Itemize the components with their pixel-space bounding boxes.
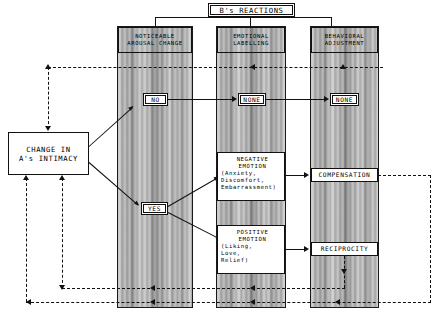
column-header-line1: EMOTIONAL [233, 33, 269, 40]
arrowhead-feedback-upper-mid [250, 64, 255, 70]
column-header-behavioral-adjustment: BEHAVIORAL ADJUSTMENT [311, 27, 378, 53]
arrowhead-feedback-upper-into-source [45, 126, 51, 131]
connector-labelling-none-to-adjustment-none [266, 99, 324, 100]
column-header-line2: ADJUSTMENT [325, 40, 365, 47]
compensation-label: COMPENSATION [319, 171, 371, 179]
arrowhead-feedback-bottom-upper-mid2 [250, 285, 255, 291]
column-header-noticeable-arousal-change: NOTICEABLE AROUSAL CHANGE [118, 27, 192, 53]
source-box-change-in-a-intimacy: CHANGE IN A's INTIMACY [8, 132, 89, 175]
connector-positive-emotion-to-reciprocity [285, 249, 305, 250]
arrowhead-feedback-reciprocity-down-from-box [341, 269, 347, 274]
labelling-none-label: NONE [243, 96, 260, 104]
column-header-line1: NOTICEABLE [135, 33, 175, 40]
negative-emotion-box: NEGATIVE EMOTION (Anxiety, Discomfort, E… [217, 152, 285, 201]
negative-emotion-line2: EMOTION [239, 163, 267, 170]
arrowhead-no-to-labelling-none [232, 96, 237, 102]
source-box-line1: CHANGE IN [26, 145, 70, 154]
arrowhead-feedback-upper-adjustment [340, 64, 346, 69]
feedback-compensation-bottom-horizontal [26, 302, 431, 303]
arrowhead-feedback-reciprocity-corner [59, 285, 65, 290]
column-header-emotional-labelling: EMOTIONAL LABELLING [217, 27, 285, 53]
positive-emotion-line1: POSITIVE [237, 229, 269, 236]
arrowhead-positive-emotion-to-reciprocity [304, 246, 309, 252]
panel-noticeable-arousal-change [117, 26, 193, 308]
decision-yes-label: YES [148, 205, 161, 213]
adjustment-none-label: NONE [336, 96, 353, 104]
decision-no-label: NO [151, 96, 160, 104]
arrowhead-labelling-none-to-adjustment-none [324, 96, 329, 102]
feedback-compensation-horizontal-right [378, 175, 431, 176]
title-bracket-horizontal [155, 17, 331, 18]
arrowhead-feedback-bottom-lower-mid [150, 299, 155, 305]
feedback-upper-vertical [48, 67, 49, 129]
title-bracket-right-drop [331, 17, 332, 26]
arrowhead-feedback-bottom-lower-mid2 [250, 299, 255, 305]
title-bracket-left-drop [155, 17, 156, 26]
feedback-reciprocity-vertical-left [62, 178, 63, 288]
column-header-line2: LABELLING [233, 40, 269, 47]
arrowhead-feedback-upper-left-corner [45, 64, 51, 69]
title-bracket-mid-drop [250, 17, 251, 26]
positive-emotion-line2: EMOTION [239, 236, 267, 243]
source-box-line2: A's INTIMACY [19, 154, 78, 163]
arrowhead-feedback-reciprocity-into-source [59, 175, 65, 180]
feedback-compensation-vertical-left [26, 178, 27, 302]
labelling-none: NONE [238, 93, 266, 106]
negative-emotion-line3: (Anxiety, [221, 170, 257, 177]
positive-emotion-box: POSITIVE EMOTION (Liking, Love, Relief) [217, 225, 285, 274]
decision-no: NO [143, 93, 168, 106]
diagram-title-text: B's REACTIONS [219, 6, 283, 15]
positive-emotion-line4: Love, [221, 250, 241, 257]
column-header-line2: AROUSAL CHANGE [127, 40, 183, 47]
column-header-line1: BEHAVIORAL [325, 33, 365, 40]
arrowhead-negative-emotion-to-compensation [304, 172, 309, 178]
arrowhead-feedback-bottom-lower-mid3 [335, 299, 340, 305]
arrowhead-feedback-bottom-upper-mid [150, 285, 155, 291]
positive-emotion-line5: Relief) [221, 257, 249, 264]
adjustment-none: NONE [330, 93, 359, 106]
positive-emotion-line3: (Liking, [221, 243, 253, 250]
decision-yes: YES [141, 202, 168, 215]
negative-emotion-line1: NEGATIVE [237, 156, 269, 163]
compensation-box: COMPENSATION [311, 168, 378, 182]
negative-emotion-line4: Discomfort, [221, 177, 265, 184]
feedback-compensation-vertical-right [430, 175, 431, 303]
feedback-upper-horizontal [48, 67, 383, 68]
arrowhead-feedback-compensation-bottom-left [26, 299, 31, 305]
reciprocity-box: RECIPROCITY [311, 242, 378, 256]
feedback-reciprocity-bottom-horizontal [62, 288, 345, 289]
arrowhead-feedback-compensation-into-source [23, 175, 29, 180]
diagram-canvas: B's REACTIONS NOTICEABLE AROUSAL CHANGE … [0, 0, 438, 326]
diagram-title: B's REACTIONS [208, 3, 295, 17]
connector-negative-emotion-to-compensation [285, 175, 305, 176]
negative-emotion-line5: Embarrassment) [221, 184, 277, 191]
reciprocity-label: RECIPROCITY [321, 245, 369, 253]
connector-no-to-labelling-none [168, 99, 232, 100]
